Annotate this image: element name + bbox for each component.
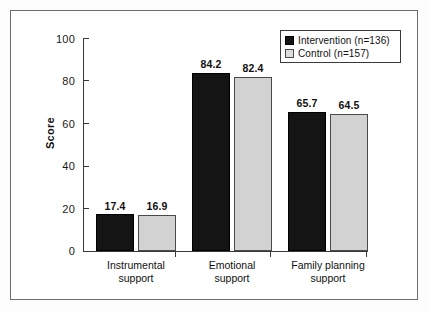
- y-tick-mark-20: [83, 208, 89, 209]
- legend-swatch-intervention-icon: [285, 36, 294, 45]
- bar-control-emotional: [234, 77, 272, 251]
- bar-value-intervention-family-planning: 65.7: [285, 97, 329, 109]
- chart-legend: Intervention (n=136) Control (n=157): [280, 30, 401, 63]
- x-category-label-emotional-line2: support: [214, 272, 249, 284]
- y-tick-label-0: 0: [47, 245, 75, 257]
- figure-frame: Score 100 80 60 40 20 0 17.4 16.9 Instru…: [10, 10, 418, 300]
- bar-intervention-family-planning: [288, 112, 326, 251]
- x-tick-mark-2: [270, 251, 271, 257]
- legend-label-intervention: Intervention (n=136): [298, 35, 390, 46]
- y-tick-mark-0: [83, 251, 89, 252]
- x-category-label-emotional-line1: Emotional: [209, 259, 256, 271]
- x-category-label-family-planning-line2: support: [310, 272, 345, 284]
- x-axis-line: [83, 251, 368, 252]
- y-tick-label-20: 20: [47, 203, 75, 215]
- x-category-label-instrumental-line2: support: [118, 272, 153, 284]
- bar-value-control-emotional: 82.4: [231, 62, 275, 74]
- y-tick-mark-40: [83, 166, 89, 167]
- x-category-label-instrumental-line1: Instrumental: [107, 259, 165, 271]
- bar-intervention-instrumental: [96, 214, 134, 251]
- bar-value-intervention-instrumental: 17.4: [93, 200, 137, 212]
- bar-control-instrumental: [138, 215, 176, 251]
- y-tick-label-100: 100: [47, 33, 75, 45]
- y-axis-line: [83, 38, 84, 252]
- bar-value-intervention-emotional: 84.2: [189, 58, 233, 70]
- x-tick-mark-1: [175, 251, 176, 257]
- y-tick-label-40: 40: [47, 160, 75, 172]
- legend-label-control: Control (n=157): [298, 48, 369, 59]
- bar-value-control-instrumental: 16.9: [135, 200, 179, 212]
- bar-intervention-emotional: [192, 73, 230, 251]
- x-category-label-family-planning: Family planning support: [268, 259, 388, 285]
- bar-control-family-planning: [330, 114, 368, 251]
- y-tick-mark-80: [83, 80, 89, 81]
- y-tick-label-80: 80: [47, 75, 75, 87]
- y-tick-label-60: 60: [47, 118, 75, 130]
- legend-item-intervention: Intervention (n=136): [285, 34, 396, 46]
- legend-item-control: Control (n=157): [285, 47, 396, 59]
- bar-value-control-family-planning: 64.5: [327, 99, 371, 111]
- x-tick-mark-3: [366, 251, 367, 257]
- figure-canvas: Score 100 80 60 40 20 0 17.4 16.9 Instru…: [0, 0, 429, 312]
- x-category-label-family-planning-line1: Family planning: [291, 259, 365, 271]
- y-tick-mark-60: [83, 123, 89, 124]
- y-tick-mark-100: [83, 38, 89, 39]
- legend-swatch-control-icon: [285, 49, 294, 58]
